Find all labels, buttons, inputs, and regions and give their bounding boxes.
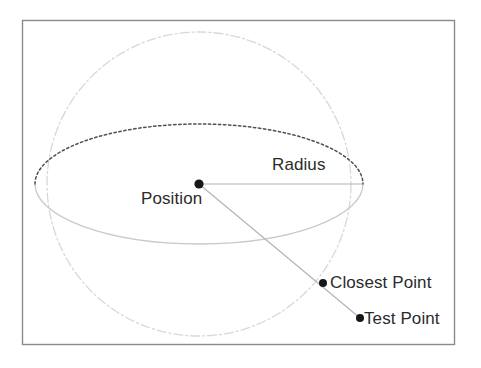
radius-label: Radius [272, 156, 326, 173]
position-label: Position [141, 190, 202, 207]
diagram-border [23, 21, 455, 345]
closest-point-label: Closest Point [330, 274, 431, 291]
closest-point-marker [319, 279, 327, 287]
position-point [194, 179, 203, 188]
test-point-marker [356, 314, 364, 322]
diagram-canvas: Radius Position Closest Point Test Point [0, 0, 481, 368]
test-point-label: Test Point [364, 310, 440, 327]
